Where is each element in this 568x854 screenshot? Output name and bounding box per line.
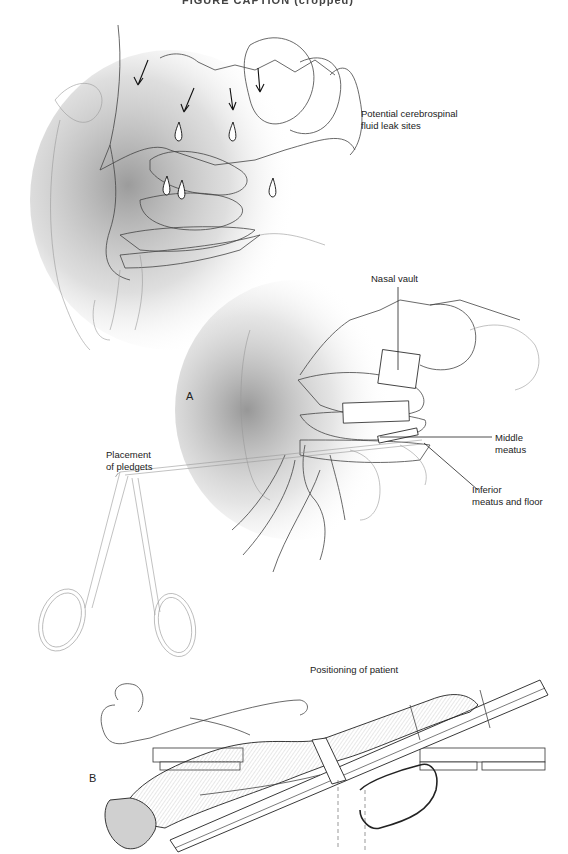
sagittal-view-pledgets <box>175 280 539 572</box>
label-nasal-vault: Nasal vault <box>371 273 418 285</box>
panel-letter-a: A <box>186 390 193 402</box>
nasal-vault-pledget <box>378 350 420 389</box>
label-positioning-of-patient: Positioning of patient <box>310 664 398 676</box>
panel-letter-b: B <box>89 772 96 784</box>
middle-meatus-pledget <box>343 401 410 423</box>
figure-illustration <box>0 0 568 854</box>
label-csf-leak-sites: Potential cerebrospinal fluid leak sites <box>361 108 458 131</box>
label-middle-meatus: Middle meatus <box>495 432 526 455</box>
patient-positioning-diagram <box>101 680 548 852</box>
label-inferior-meatus: Inferior meatus and floor <box>472 484 543 507</box>
label-placement-of-pledgets: Placement of pledgets <box>106 449 152 472</box>
